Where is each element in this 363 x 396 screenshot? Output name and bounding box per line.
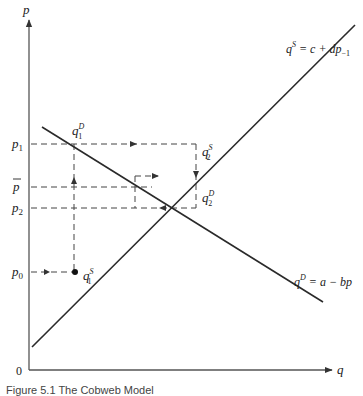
y-axis-label: p	[22, 2, 30, 17]
pbar-label: p	[12, 179, 20, 194]
arrow-down-q2	[193, 171, 199, 178]
q1d-label: qD1	[72, 122, 85, 141]
price-labels: p1 p p2 p0	[11, 136, 24, 281]
q1s-label: qS1	[83, 267, 94, 286]
arrow-right-inner	[152, 173, 159, 179]
demand-equation: qD = a − bp	[294, 273, 352, 289]
arrow-right-p1	[130, 141, 137, 147]
supply-curve	[32, 25, 355, 347]
q2s-label: qS2	[202, 143, 213, 162]
x-axis-label: q	[337, 362, 344, 377]
figure-caption: Figure 5.1 The Cobweb Model	[6, 384, 154, 396]
arrow-right-p0	[44, 269, 50, 275]
point-labels: qD1 qS2 qD2 qS1	[72, 122, 215, 286]
arrow-up-q1	[71, 177, 77, 184]
q2d-label: qD2	[202, 189, 215, 208]
p1-label: p1	[11, 136, 23, 153]
p2-label: p2	[11, 200, 23, 217]
supply-equation: qS = c + dp−1	[286, 40, 350, 58]
origin-label: 0	[16, 364, 22, 378]
axes: p q 0	[16, 2, 344, 378]
arrow-left-p2	[159, 205, 166, 211]
p0-label: p0	[11, 264, 24, 281]
q1s-point	[72, 269, 78, 275]
